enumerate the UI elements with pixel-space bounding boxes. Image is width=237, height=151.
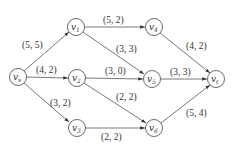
edge-label-v4-vt: (4, 2) bbox=[186, 41, 207, 52]
edge-label-v2-v6: (2, 2) bbox=[116, 92, 137, 103]
edge-label-vs-v2: (4, 2) bbox=[36, 65, 57, 76]
edge-vs-v2 bbox=[26, 77, 68, 78]
node-v5: v5 bbox=[144, 71, 161, 88]
node-v3: v3 bbox=[69, 120, 86, 137]
edge-v2-v6 bbox=[84, 83, 146, 123]
edge-label-vs-v1: (5, 5) bbox=[22, 40, 43, 51]
node-v2: v2 bbox=[69, 70, 86, 87]
edge-v2-v5 bbox=[85, 78, 143, 79]
node-v4: v4 bbox=[146, 19, 163, 36]
node-v1: v1 bbox=[68, 19, 85, 36]
edge-label-v2-v5: (3, 0) bbox=[105, 66, 126, 77]
edge-label-vs-v3: (3, 2) bbox=[50, 98, 71, 109]
edges: (5, 5) (4, 2) (3, 2) (5, 2) (3, 3) (3, 0… bbox=[22, 15, 210, 143]
node-v6: v6 bbox=[146, 120, 163, 137]
edge-label-v6-vt: (5, 4) bbox=[186, 108, 207, 119]
edge-label-v1-v5: (3, 3) bbox=[116, 44, 137, 55]
edge-label-v3-v6: (2, 2) bbox=[101, 132, 122, 143]
flow-network-diagram: (5, 5) (4, 2) (3, 2) (5, 2) (3, 3) (3, 0… bbox=[0, 0, 237, 151]
node-vs: vs bbox=[10, 69, 27, 86]
edge-label-v1-v4: (5, 2) bbox=[103, 15, 124, 26]
edge-label-v5-vt: (3, 3) bbox=[170, 67, 191, 78]
node-vt: vt bbox=[208, 71, 225, 88]
